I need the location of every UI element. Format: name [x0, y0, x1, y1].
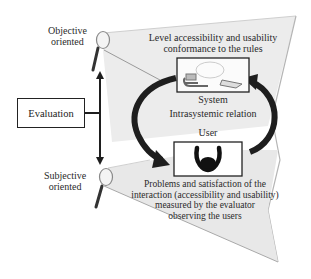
subjective-desc-line1: Problems and satisfaction of the	[130, 179, 280, 190]
objective-line2: oriented	[48, 36, 87, 47]
objective-desc-line2: conformance to the rules	[148, 43, 278, 54]
objective-description: Level accessibility and usability confor…	[148, 32, 278, 54]
subjective-oriented-label: Subjective oriented	[44, 170, 86, 192]
subjective-desc-line2: interaction (accessibility and usability…	[130, 190, 280, 201]
evaluation-box: Evaluation	[17, 98, 85, 128]
evaluation-label: Evaluation	[28, 108, 74, 119]
objective-oriented-label: Objective oriented	[48, 25, 87, 47]
subjective-desc-line4: observing the users	[130, 211, 280, 222]
system-label: System	[168, 94, 258, 105]
subjective-line1: Subjective	[44, 170, 86, 181]
subjective-line2: oriented	[44, 181, 86, 192]
intrasystemic-relation-label: Intrasystemic relation	[148, 108, 278, 119]
user-label: User	[168, 127, 248, 138]
subjective-desc-line3: measured by the evaluator	[130, 200, 280, 211]
subjective-description: Problems and satisfaction of the interac…	[130, 179, 280, 221]
objective-desc-line1: Level accessibility and usability	[148, 32, 278, 43]
objective-line1: Objective	[48, 25, 87, 36]
evaluation-double-arrow	[85, 71, 104, 165]
